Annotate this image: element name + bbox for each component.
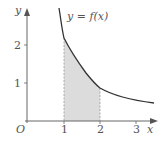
tick-label-y1: 1 <box>14 77 21 90</box>
y-axis-arrow-icon <box>24 8 30 16</box>
tick-label-y2: 2 <box>14 39 21 52</box>
y-axis-label: y <box>14 4 22 17</box>
tick-label-x3: 3 <box>133 123 140 136</box>
tick-label-x2: 2 <box>97 123 104 136</box>
origin-label: O <box>16 123 25 136</box>
curve-label: y = f(x) <box>66 10 108 23</box>
x-axis-label: x <box>147 123 154 136</box>
area-under-curve-chart: y = f(x) y x O 1 2 3 1 2 <box>0 0 164 146</box>
shaded-region <box>64 38 100 121</box>
tick-label-x1: 1 <box>61 123 68 136</box>
